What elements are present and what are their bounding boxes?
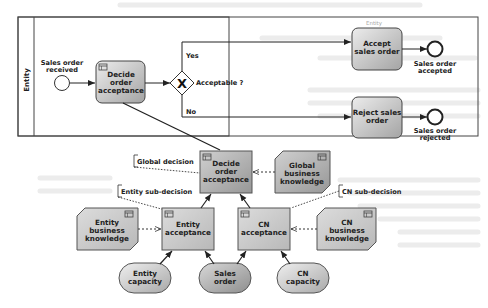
info-req-entity-capacity [160,251,172,264]
end-rejected-label-2: rejected [420,134,451,142]
task-reject-sales-order[interactable]: Reject sales order [352,97,402,138]
pool-entity: Entity [18,17,478,136]
input-entity-capacity[interactable]: Entity capacity [119,263,171,293]
bkm-global-business-knowledge[interactable]: Global business knowledge [275,151,330,193]
branch-no-label: No [186,108,197,116]
input-sales-order[interactable]: Sales order [199,263,251,293]
annotation-entity-subdecision: Entity sub-decision [118,185,193,210]
exclusive-gateway[interactable]: X [170,71,194,95]
task-accept-sales-order[interactable]: Accept sales order [352,28,402,70]
annotation-entity-subdecision-text: Entity sub-decision [121,188,193,196]
info-req-cn-to-main [240,194,250,208]
task-decide-order-acceptance[interactable]: Decide order acceptance [96,61,145,103]
lane-label: Entity [23,68,31,92]
branch-yes-label: Yes [185,52,199,60]
task-reject-label-2: order [366,116,389,125]
info-req-entity-to-main [201,194,211,208]
decision-entity-acceptance[interactable]: Entity acceptance [162,208,214,250]
task-accept-label-2: sales order [354,47,400,56]
input-cn-capacity[interactable]: CN capacity [277,263,329,293]
task-decide-label-3: acceptance [98,86,144,95]
flow-yes-branch [182,42,351,71]
annotation-global-decision: Global decision [134,155,200,173]
annotation-global-decision-text: Global decision [137,158,194,166]
cn-bkm-label-3: knowledge [325,234,369,243]
bkm-entity-business-knowledge[interactable]: Entity business knowledge [77,208,138,250]
info-req-cn-capacity [281,251,290,264]
decision-main-label-3: acceptance [203,175,249,184]
cn-acceptance-label-2: acceptance [241,228,287,237]
input-sales-order-label-2: order [214,277,237,286]
decision-cn-acceptance[interactable]: CN acceptance [238,208,290,250]
entity-acceptance-label-2: acceptance [165,228,211,237]
bkm-cn-business-knowledge[interactable]: CN business knowledge [317,208,376,250]
annotation-cn-subdecision-text: CN sub-decision [342,188,402,196]
start-event-sales-order-received[interactable] [55,76,70,91]
gateway-label: Acceptable ? [196,79,243,87]
accept-task-lane-tag: Entity [366,20,383,27]
pool-border [18,17,478,136]
decision-decide-order-acceptance[interactable]: Decide order acceptance [200,151,252,193]
end-event-sales-order-rejected[interactable] [428,110,443,125]
end-accepted-label-2: accepted [418,67,452,75]
info-req-sales-order-cn [237,251,246,264]
gateway-x-icon: X [177,76,187,91]
input-entity-capacity-label-2: capacity [128,277,162,286]
association-task-to-decision [123,103,220,150]
input-cn-capacity-label-2: capacity [286,277,320,286]
end-event-sales-order-accepted[interactable] [428,42,443,57]
global-bkm-label-3: knowledge [280,177,324,186]
flow-no-branch [182,95,351,117]
info-req-sales-order-entity [205,251,214,264]
start-event-label-2: received [46,66,78,74]
bpmn-dmn-diagram: Entity Sales order received Decide order… [0,0,488,308]
entity-bkm-label-3: knowledge [85,234,129,243]
